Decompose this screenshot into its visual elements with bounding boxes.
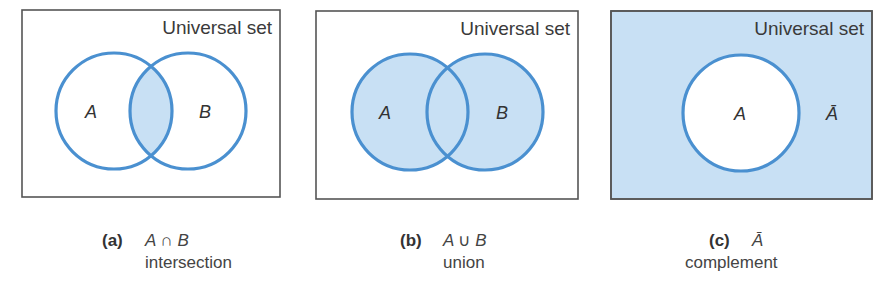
set-b-label: B xyxy=(199,102,211,122)
caption-union: (b)A ∪ B union xyxy=(400,230,487,274)
expression: A ∩ B xyxy=(145,231,189,250)
panel-intersection: Universal set A B xyxy=(22,10,280,197)
set-a-label: A xyxy=(378,103,391,123)
expression: Ā xyxy=(752,231,763,250)
caption-intersection: (a)A ∩ B intersection xyxy=(102,230,232,274)
panel-tag: (b) xyxy=(400,230,443,252)
set-b-label: B xyxy=(496,103,508,123)
set-a-label: A xyxy=(733,104,746,124)
panel-tag: (c) xyxy=(709,230,752,252)
panel-complement: Universal set A Ā xyxy=(611,11,872,199)
panel-union: Universal set A B xyxy=(316,11,578,199)
caption-word: intersection xyxy=(145,252,232,274)
expr-left: A xyxy=(145,231,156,250)
complement-label: Ā xyxy=(825,104,838,124)
union-operator: ∪ xyxy=(458,231,470,250)
caption-complement-word: complement xyxy=(685,252,778,274)
expr-left: A xyxy=(443,231,454,250)
caption-word: union xyxy=(443,252,487,274)
caption-complement: (c)Ā xyxy=(709,230,763,252)
expression: A ∪ B xyxy=(443,231,487,250)
expr-right: B xyxy=(475,231,486,250)
universal-set-label: Universal set xyxy=(754,18,865,39)
expr-right: B xyxy=(177,231,188,250)
universal-set-label: Universal set xyxy=(162,17,273,38)
panel-tag: (a) xyxy=(102,230,145,252)
set-a-label: A xyxy=(84,102,97,122)
universal-set-label: Universal set xyxy=(460,18,571,39)
intersection-operator: ∩ xyxy=(160,231,172,250)
